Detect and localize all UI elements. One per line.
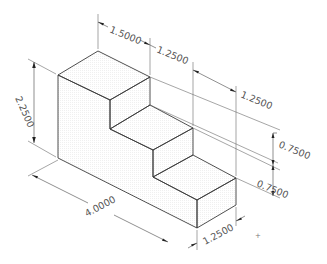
dim-upper-riser: 0.7500 [277, 139, 312, 162]
dim-width: 1.2500 [201, 221, 236, 246]
dim-middle-step-depth: 1.2500 [155, 44, 190, 67]
dim-bottom-step-depth: 1.2500 [239, 89, 274, 112]
dim-overall-length: 4.0000 [83, 193, 118, 218]
stair-block-drawing: 1.5000 1.2500 1.2500 2.2500 0.7500 0.750… [0, 0, 327, 264]
drawing-canvas: 1.5000 1.2500 1.2500 2.2500 0.7500 0.750… [0, 0, 327, 264]
dim-overall-height: 2.2500 [13, 94, 37, 129]
cursor-marker: + [255, 232, 261, 240]
dim-top-step-depth: 1.5000 [108, 24, 143, 47]
